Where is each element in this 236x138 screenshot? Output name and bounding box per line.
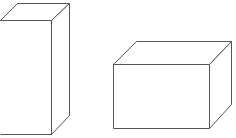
tall-box-side-face: [52, 4, 70, 135]
tall-box-front-face: [1, 21, 52, 135]
wide-box-front-face: [114, 65, 210, 129]
tall-box: [1, 4, 70, 135]
wide-box: [114, 42, 232, 129]
diagram-canvas: [0, 0, 236, 138]
